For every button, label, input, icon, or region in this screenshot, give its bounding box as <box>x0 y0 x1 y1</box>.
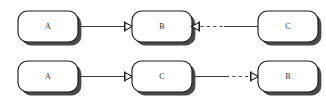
diagram-root: A B C <box>0 0 326 103</box>
arrow-into-node-icon <box>125 72 133 82</box>
arrowhead-shape <box>125 22 133 30</box>
node-label: B <box>159 22 165 31</box>
diagram-row-top-sequence: A B C <box>18 11 321 45</box>
node-label: B <box>285 72 291 81</box>
node-label: C <box>285 22 291 31</box>
edge-row1-b-to-c <box>192 22 258 32</box>
diagram-row-bottom-sequence: A C B <box>18 61 321 95</box>
edge-row2-c-to-b <box>192 72 258 82</box>
node-label: A <box>45 22 51 31</box>
edge-row2-a-to-c <box>78 72 132 82</box>
arrow-into-node-icon <box>125 22 133 32</box>
arrow-into-node-icon <box>251 72 259 82</box>
node-label: A <box>45 72 51 81</box>
node-label: C <box>159 72 165 81</box>
diagram-node-row2-c[interactable]: C <box>132 61 195 95</box>
arrowhead-shape <box>251 72 259 80</box>
diagram-node-row1-a[interactable]: A <box>18 11 81 45</box>
diagram-node-row1-b[interactable]: B <box>132 11 195 45</box>
diagram-node-row2-b[interactable]: B <box>258 61 321 95</box>
diagram-canvas: A B C <box>0 0 326 103</box>
diagram-node-row1-c[interactable]: C <box>258 11 321 45</box>
edge-row1-a-to-b <box>78 22 132 32</box>
diagram-node-row2-a[interactable]: A <box>18 61 81 95</box>
arrowhead-shape <box>125 72 133 80</box>
